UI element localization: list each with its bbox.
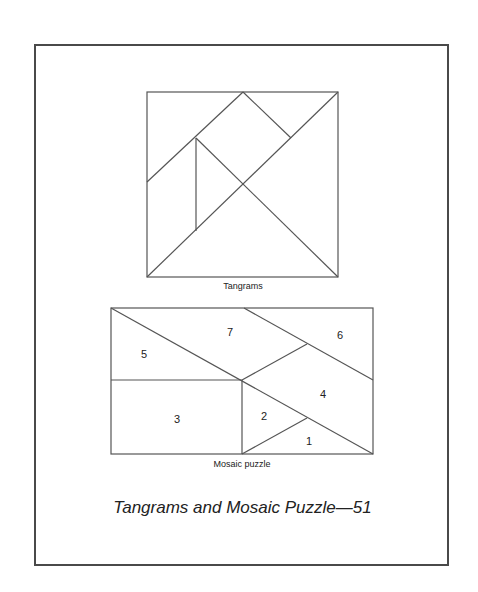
tangram-cross-diagonal (196, 138, 338, 277)
mosaic-piece-2-number: 2 (261, 410, 267, 422)
tangram-upper-right-edge (243, 92, 291, 138)
mosaic-piece-4-number: 4 (320, 388, 326, 400)
tangram-figure (147, 92, 338, 277)
mosaic-mid-edge (242, 344, 307, 380)
tangram-label: Tangrams (193, 281, 293, 291)
mosaic-piece-1-number: 1 (306, 435, 312, 447)
mosaic-figure (111, 308, 373, 454)
tangram-upper-left-edge (147, 92, 243, 182)
mosaic-piece-7-number: 7 (227, 326, 233, 338)
mosaic-piece-5-number: 5 (141, 348, 147, 360)
mosaic-upper-diagonal (244, 308, 373, 380)
mosaic-piece-6-number: 6 (337, 329, 343, 341)
mosaic-label: Mosaic puzzle (192, 459, 292, 469)
mosaic-piece-3-number: 3 (174, 413, 180, 425)
page-caption: Tangrams and Mosaic Puzzle—51 (90, 498, 395, 518)
mosaic-lower-edge (242, 418, 307, 454)
